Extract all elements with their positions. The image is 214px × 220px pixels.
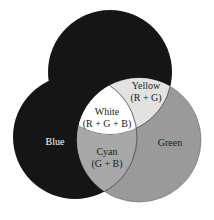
white-formula: (R + G + B): [83, 118, 132, 130]
cyan-label: Cyan: [96, 146, 117, 157]
blue-label: Blue: [46, 136, 65, 147]
yellow-label: Yellow: [132, 80, 161, 91]
white-label: White: [95, 106, 120, 117]
green-label: Green: [158, 137, 182, 148]
yellow-formula: (R + G): [130, 92, 161, 104]
additive-color-venn-diagram: Blue Green White (R + G + B) Yellow (R +…: [0, 0, 214, 220]
cyan-formula: (G + B): [91, 158, 122, 170]
